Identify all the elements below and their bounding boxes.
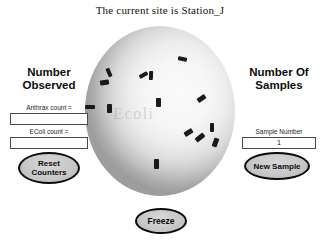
number-observed-heading-line1: Number <box>6 66 92 79</box>
specimen-speck <box>178 56 188 62</box>
specimen-speck <box>210 123 214 132</box>
specimen-speck <box>196 94 206 103</box>
specimen-speck <box>100 79 110 85</box>
number-of-samples-heading-line1: Number Of <box>240 66 318 79</box>
ecoli-count-field[interactable] <box>10 137 88 149</box>
ecoli-count-label: EColi count = <box>10 128 88 135</box>
sample-number-group: Sample Number 1 <box>242 128 316 149</box>
reset-counters-label-line1: Reset <box>31 159 66 168</box>
freeze-label: Freeze <box>148 217 175 226</box>
watermark-text: Ecoli <box>113 104 154 124</box>
microscope-view[interactable]: Ecoli <box>85 26 235 196</box>
lab-simulation-panel: The current site is Station_J Ecoli Numb… <box>0 0 320 245</box>
number-of-samples-heading: Number Of Samples <box>240 66 318 92</box>
specimen-speck <box>195 132 206 142</box>
number-of-samples-panel: Number Of Samples Sample Number 1 <box>240 66 318 92</box>
freeze-button[interactable]: Freeze <box>135 208 187 234</box>
number-observed-panel: Number Observed Anthrax count = EColi co… <box>6 66 92 92</box>
ecoli-count-group: EColi count = <box>10 128 88 149</box>
microscope-view-container: Ecoli <box>85 26 235 196</box>
specimen-speck <box>139 71 149 79</box>
specimen-speck <box>105 68 112 78</box>
sample-number-label: Sample Number <box>242 128 316 135</box>
page-title: The current site is Station_J <box>0 4 320 16</box>
new-sample-button[interactable]: New Sample <box>244 152 310 180</box>
specimen-speck <box>149 71 153 80</box>
anthrax-count-group: Anthrax count = <box>10 104 88 125</box>
reset-counters-label-line2: Counters <box>31 168 66 177</box>
anthrax-count-label: Anthrax count = <box>10 104 88 111</box>
anthrax-count-field[interactable] <box>10 113 88 125</box>
specimen-speck <box>183 128 193 137</box>
specimen-speck <box>212 137 220 147</box>
new-sample-label: New Sample <box>253 162 300 171</box>
specimen-speck <box>156 98 161 107</box>
specimen-speck <box>107 104 112 113</box>
specimen-speck <box>154 159 159 169</box>
number-observed-heading-line2: Observed <box>6 79 92 92</box>
sample-number-field[interactable]: 1 <box>242 137 316 149</box>
reset-counters-button[interactable]: Reset Counters <box>18 152 80 184</box>
number-of-samples-heading-line2: Samples <box>240 79 318 92</box>
number-observed-heading: Number Observed <box>6 66 92 92</box>
